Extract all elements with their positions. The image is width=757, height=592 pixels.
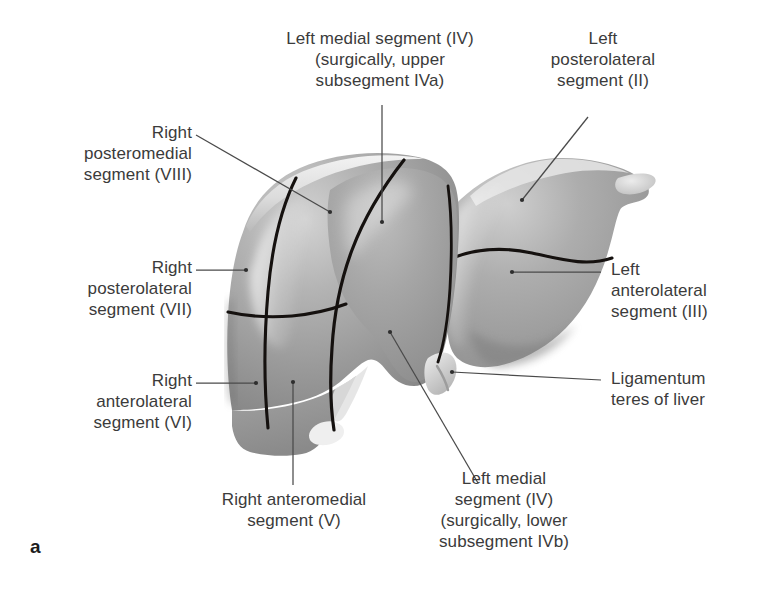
- right-lobe-group: [227, 153, 459, 456]
- dot-right-anterolateral: [254, 381, 258, 385]
- dot-left-medial-lower: [388, 330, 392, 334]
- dot-ligamentum-teres: [450, 370, 454, 374]
- label-left-medial-segment-IVa: Left medial segment (IV) (surgically, up…: [264, 28, 496, 91]
- dot-left-medial-upper: [380, 220, 384, 224]
- figure-letter: a: [30, 536, 41, 558]
- label-left-anterolateral-segment-III: Left anterolateral segment (III): [611, 259, 757, 322]
- label-right-anterolateral-segment-VI: Right anterolateral segment (VI): [20, 370, 192, 433]
- dot-left-anterolateral: [510, 270, 514, 274]
- label-left-medial-segment-IVb: Left medial segment (IV) (surgically, lo…: [396, 468, 612, 552]
- dot-right-posteromedial: [328, 210, 332, 214]
- liver-segments-figure: Left medial segment (IV) (surgically, up…: [0, 0, 757, 592]
- dot-right-anteromedial: [291, 380, 295, 384]
- label-ligamentum-teres-of-liver: Ligamentum teres of liver: [611, 368, 757, 410]
- label-right-anteromedial-segment-V: Right anteromedial segment (V): [196, 489, 392, 531]
- label-right-posteromedial-segment-VIII: Right posteromedial segment (VIII): [20, 122, 192, 185]
- dot-right-posterolateral: [244, 268, 248, 272]
- leader-ligamentum-teres: [452, 372, 601, 380]
- label-left-posterolateral-segment-II: Left posterolateral segment (II): [528, 28, 678, 91]
- label-right-posterolateral-segment-VII: Right posterolateral segment (VII): [20, 257, 192, 320]
- dot-left-posterolateral: [520, 198, 524, 202]
